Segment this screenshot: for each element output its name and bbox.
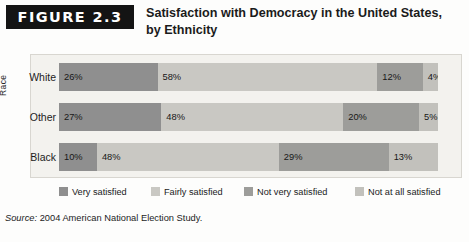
- legend-swatch-icon: [59, 187, 68, 196]
- bar-row-label-black: Black: [2, 143, 56, 171]
- bar-segment-not-at-all-satisfied: 13%: [389, 143, 438, 171]
- bar-segment-value: 48%: [161, 112, 185, 122]
- source-text: 2004 American National Election Study.: [40, 213, 203, 223]
- bar-row-label-white: White: [2, 63, 56, 91]
- bar-segment-not-very-satisfied: 29%: [279, 143, 389, 171]
- bar-segment-value: 48%: [97, 152, 121, 162]
- bar-segment-value: 13%: [389, 152, 413, 162]
- bar-segment-very-satisfied: 26%: [59, 63, 158, 91]
- bar-segment-not-very-satisfied: 20%: [343, 103, 419, 131]
- bar-row: White26%58%12%4%: [0, 63, 469, 91]
- bar-segment-value: 5%: [419, 112, 437, 122]
- legend-item-not-very-satisfied[interactable]: Not very satisfied: [244, 185, 327, 198]
- bar-segment-value: 10%: [59, 152, 83, 162]
- bar-segment-not-very-satisfied: 12%: [377, 63, 422, 91]
- legend-label: Not at all satisfied: [368, 187, 441, 197]
- bar-segment-very-satisfied: 10%: [59, 143, 97, 171]
- bar-segment-fairly-satisfied: 58%: [158, 63, 378, 91]
- bar-segment-value: 12%: [377, 72, 401, 82]
- stacked-bar: 26%58%12%4%: [59, 63, 438, 91]
- bar-row: Black10%48%29%13%: [0, 143, 469, 171]
- source-label: Source:: [5, 213, 37, 223]
- bar-segment-value: 29%: [279, 152, 303, 162]
- page-margin-text: [461, 58, 469, 208]
- bar-segment-not-at-all-satisfied: 4%: [423, 63, 438, 91]
- bar-rows: White26%58%12%4%Other27%48%20%5%Black10%…: [0, 0, 469, 242]
- source-note: Source: 2004 American National Election …: [5, 213, 202, 223]
- bar-segment-fairly-satisfied: 48%: [97, 143, 279, 171]
- legend-label: Fairly satisfied: [164, 187, 223, 197]
- bar-segment-not-at-all-satisfied: 5%: [419, 103, 438, 131]
- bar-segment-value: 20%: [343, 112, 367, 122]
- legend-swatch-icon: [355, 187, 364, 196]
- bar-segment-value: 58%: [158, 72, 182, 82]
- bar-segment-value: 26%: [59, 72, 83, 82]
- legend-item-very-satisfied[interactable]: Very satisfied: [59, 185, 127, 198]
- bar-segment-fairly-satisfied: 48%: [161, 103, 343, 131]
- legend-label: Very satisfied: [72, 187, 127, 197]
- legend-item-fairly-satisfied[interactable]: Fairly satisfied: [151, 185, 223, 198]
- bar-segment-value: 4%: [423, 72, 438, 82]
- figure-page: FIGURE 2.3 Satisfaction with Democracy i…: [0, 0, 469, 242]
- legend-label: Not very satisfied: [257, 187, 327, 197]
- bar-segment-very-satisfied: 27%: [59, 103, 161, 131]
- legend-item-not-at-all-satisfied[interactable]: Not at all satisfied: [355, 185, 441, 198]
- bar-segment-value: 27%: [59, 112, 83, 122]
- legend-swatch-icon: [151, 187, 160, 196]
- legend-swatch-icon: [244, 187, 253, 196]
- stacked-bar: 27%48%20%5%: [59, 103, 438, 131]
- bar-row: Other27%48%20%5%: [0, 103, 469, 131]
- stacked-bar: 10%48%29%13%: [59, 143, 438, 171]
- chart-legend: Very satisfiedFairly satisfiedNot very s…: [59, 185, 459, 199]
- bar-row-label-other: Other: [2, 103, 56, 131]
